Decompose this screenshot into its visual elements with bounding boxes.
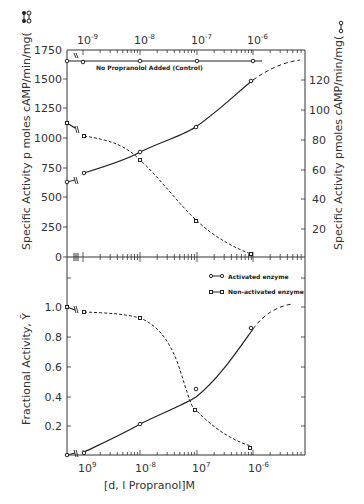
axis-break-marks: [74, 53, 79, 457]
svg-text:10-8: 10-8: [134, 33, 155, 47]
svg-text:120: 120: [309, 74, 330, 87]
bottom-y-tick-labels: 1.0 0.8 0.6 0.4 0.2: [45, 301, 63, 433]
legend: Activated enzyme Non-activated enzyme: [209, 273, 303, 296]
x-axis-title: [d, l Propranol]M: [104, 479, 195, 492]
svg-text:20: 20: [312, 223, 326, 236]
svg-text:0.6: 0.6: [45, 361, 63, 374]
svg-text:10-6: 10-6: [248, 461, 270, 475]
svg-text:10-8: 10-8: [135, 461, 156, 475]
svg-text:80: 80: [312, 134, 326, 147]
bottom-x-tick-labels: 109 10-8 107 10-6: [78, 461, 270, 475]
right-y-tick-labels: 120 100 80 60 40 20: [309, 74, 330, 236]
right-y-axis-title: Specific Activity pmoles cAMP/min/mg(: [332, 36, 345, 250]
svg-text:1250: 1250: [34, 102, 62, 115]
bottom-y-axis-ticks: [67, 337, 71, 426]
bottom-activated-series: [65, 304, 292, 457]
left-y-tick-labels: 1750 1500 1250 1000 750 500 250 0: [34, 44, 62, 264]
svg-text:500: 500: [41, 191, 62, 204]
filled-circle-legend-icon: [22, 11, 31, 23]
bottom-y-axis-title: Fractional Activity, Ȳ: [20, 313, 33, 425]
open-circle-legend-icon: [339, 21, 343, 33]
svg-text:1500: 1500: [34, 73, 62, 86]
svg-text:100: 100: [309, 104, 330, 117]
svg-text:40: 40: [312, 193, 326, 206]
right-y-axis-ticks: [301, 80, 305, 426]
legend-nonactivated-label: Non-activated enzyme: [228, 288, 304, 296]
top-x-tick-labels: 10-9 10-8 10-7 10-6: [77, 33, 269, 47]
propranolol-chart: 10-9 10-8 10-7 10-6 109 10-8 107 10-6 17…: [0, 0, 364, 504]
svg-text:109: 109: [78, 461, 96, 475]
svg-text:60: 60: [312, 164, 326, 177]
svg-text:1000: 1000: [34, 132, 62, 145]
control-label: No Propranolol Added (Control): [96, 64, 203, 72]
top-activated-series: [65, 60, 300, 184]
svg-text:1750: 1750: [34, 44, 62, 57]
svg-text:0.2: 0.2: [45, 420, 63, 433]
svg-text:0.4: 0.4: [45, 391, 63, 404]
svg-text:0: 0: [55, 251, 62, 264]
bottom-nonactivated-series: [66, 306, 252, 450]
svg-text:107: 107: [192, 461, 210, 475]
control-series: No Propranolol Added (Control): [65, 59, 262, 72]
top-x-axis-ticks: [83, 50, 301, 55]
svg-text:10-6: 10-6: [247, 33, 269, 47]
svg-text:1.0: 1.0: [45, 301, 63, 314]
svg-text:10-9: 10-9: [77, 33, 98, 47]
left-y-axis-title: Specific Activity p moles cAMP/min/mg(: [20, 32, 33, 250]
svg-text:250: 250: [41, 221, 62, 234]
top-nonactivated-series: [66, 122, 253, 256]
svg-text:10-7: 10-7: [191, 33, 212, 47]
legend-activated-label: Activated enzyme: [228, 273, 288, 281]
top-panel: [67, 50, 305, 455]
svg-text:750: 750: [41, 162, 62, 175]
svg-text:0.8: 0.8: [45, 331, 63, 344]
bottom-x-axis-ticks: [83, 450, 301, 455]
